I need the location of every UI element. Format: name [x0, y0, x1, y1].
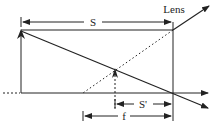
s-label: S	[90, 16, 96, 28]
f-label: f	[122, 110, 126, 122]
lens-label: Lens	[163, 3, 184, 15]
lens-diagram: S Lens S' f	[0, 0, 216, 128]
s-prime-label: S'	[139, 98, 147, 110]
